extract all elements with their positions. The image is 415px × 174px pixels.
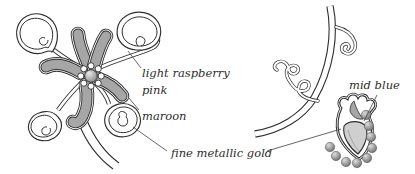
loop-petal-top-left — [17, 14, 58, 54]
petal-left — [46, 65, 81, 73]
left-flower — [17, 12, 161, 169]
center-bead — [88, 83, 94, 89]
label-fine-metallic-gold: fine metallic gold — [170, 146, 272, 160]
center-bead — [95, 66, 101, 72]
design-figure: light raspberry pink maroon fine metalli… — [0, 0, 415, 174]
bead — [352, 158, 361, 167]
bead — [362, 153, 371, 162]
label-maroon: maroon — [142, 109, 187, 123]
loop-outline — [117, 12, 161, 50]
bead — [366, 132, 375, 141]
center-bead — [81, 66, 87, 72]
center-bead — [95, 80, 101, 86]
label-mid-blue: mid blue — [349, 78, 400, 92]
bead — [325, 142, 334, 151]
petal-up-right — [94, 36, 106, 67]
embroidery-design-illustration: light raspberry pink maroon fine metalli… — [0, 0, 415, 174]
loop-outline — [105, 104, 141, 137]
arc-outline — [255, 6, 332, 134]
bead — [341, 157, 350, 166]
center-bead — [98, 73, 104, 79]
leader-fine-metallic-gold-left — [133, 127, 167, 151]
label-light-raspberry-pink-line1: light raspberry — [142, 66, 230, 80]
trailing-stem-2 — [79, 124, 113, 169]
loop-petal-top-right — [117, 12, 161, 50]
tendril-spiral-hook — [336, 27, 355, 54]
bead — [361, 110, 370, 119]
flower-center — [78, 63, 105, 90]
center-bead — [88, 63, 94, 69]
center-bead — [78, 73, 84, 79]
center-ball — [85, 70, 98, 83]
label-light-raspberry-pink-line2: pink — [142, 83, 167, 97]
petal-up-left — [78, 34, 89, 68]
loop-stem-bottom-left-core — [58, 82, 82, 110]
loop-outline — [17, 14, 58, 54]
loop-petal-bottom-right — [105, 104, 141, 137]
main-arc-stem — [255, 6, 332, 134]
loop-petal-bottom-left — [28, 112, 61, 141]
bead — [364, 121, 373, 130]
center-bead — [81, 80, 87, 86]
bead — [367, 143, 376, 152]
bead — [331, 151, 340, 160]
